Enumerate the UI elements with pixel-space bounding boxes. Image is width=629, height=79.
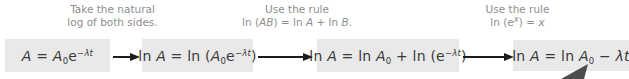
equation-step-2: ln A = ln (A0e−λt) <box>138 48 256 64</box>
arrow-head <box>130 53 140 61</box>
annotation-line: ln (AB) = ln A + ln B. <box>222 16 372 29</box>
equation-derivation-diagram: Take the natural log of both sides. Use … <box>0 0 629 79</box>
arrow-shaft <box>258 56 303 58</box>
annotation-line: ln (ex) = x <box>455 16 580 29</box>
equation-step-1: A = A0e−λt <box>22 48 93 64</box>
arrow-shaft <box>463 56 504 58</box>
flow-arrow-1-icon <box>113 51 140 63</box>
annotation-line: Take the natural <box>40 3 185 16</box>
annotation-take-natural-log: Take the natural log of both sides. <box>40 3 185 29</box>
equation-box-1: A = A0e−λt <box>5 39 110 72</box>
annotation-line: log of both sides. <box>40 16 185 29</box>
equation-step-3: ln A = ln A0 + ln (e−λt) <box>309 48 466 64</box>
callout-wedge-icon <box>555 60 595 79</box>
flow-arrow-3-icon <box>463 51 514 63</box>
flow-arrow-2-icon <box>258 51 313 63</box>
arrow-head <box>504 53 514 61</box>
arrow-shaft <box>113 56 130 58</box>
equation-box-3: ln A = ln A0 + ln (e−λt) <box>317 39 459 72</box>
equation-box-2: ln A = ln (A0e−λt) <box>142 39 253 72</box>
annotation-ln-exp-rule: Use the rule ln (ex) = x <box>455 3 580 29</box>
annotation-line: Use the rule <box>222 3 372 16</box>
annotation-ln-product-rule: Use the rule ln (AB) = ln A + ln B. <box>222 3 372 29</box>
arrow-head <box>303 53 313 61</box>
